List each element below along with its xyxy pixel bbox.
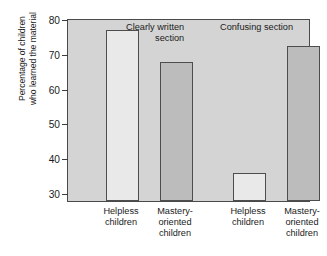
x-axis-category-line: children [259, 228, 327, 239]
plot-annotation: Clearly writtensection [126, 22, 184, 45]
x-axis-category-line: Mastery- [259, 206, 327, 217]
plot-inner: 304050607080Clearly writtensectionConfus… [68, 20, 309, 201]
y-axis-tick-label: 30 [49, 189, 60, 200]
y-axis-title-line-1: Percentage of children [17, 0, 28, 146]
x-axis-category-label: Mastery-orientedchildren [259, 206, 327, 240]
y-axis-tick-label: 40 [49, 154, 60, 165]
x-axis-category-line: oriented [259, 217, 327, 228]
y-axis-tick-label: 70 [49, 49, 60, 60]
plot-annotation-line: section [126, 33, 184, 44]
bar-chart-figure: Percentage of children who learned the m… [0, 0, 327, 256]
y-axis-tick [62, 20, 68, 21]
y-axis-tick-label: 50 [49, 119, 60, 130]
y-axis-tick-label: 60 [49, 84, 60, 95]
plot-annotation-line: Confusing section [220, 22, 293, 33]
x-axis-category-line: children [132, 228, 218, 239]
bar [287, 46, 320, 201]
plot-annotation: Confusing section [220, 22, 293, 33]
y-axis-tick [62, 90, 68, 91]
y-axis-tick [62, 55, 68, 56]
y-axis-tick-label: 80 [49, 15, 60, 26]
bar [233, 173, 266, 201]
bar [106, 30, 139, 201]
y-axis-tick [62, 124, 68, 125]
y-axis-title: Percentage of children who learned the m… [17, 0, 38, 146]
plot-area: 304050607080Clearly writtensectionConfus… [67, 19, 310, 202]
plot-annotation-line: Clearly written [126, 22, 184, 33]
y-axis-tick [62, 159, 68, 160]
bar [160, 62, 193, 201]
y-axis-title-line-2: who learned the material [28, 0, 39, 146]
y-axis-tick [62, 194, 68, 195]
